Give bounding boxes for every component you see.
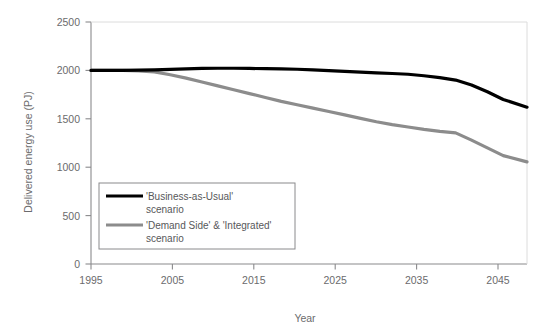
- series-line-business-as-usual: [91, 68, 527, 107]
- series-line-demand-side-integrated: [91, 70, 527, 161]
- x-axis-tick-labels: 1995 2005 2015 2025 2035 2045: [79, 274, 510, 286]
- legend-label-demand-side-integrated-line2: scenario: [146, 233, 184, 244]
- legend: 'Business-as-Usual' scenario 'Demand Sid…: [99, 183, 295, 249]
- y-tick-label-2500: 2500: [57, 16, 81, 28]
- x-tick-label-2045: 2045: [486, 274, 510, 286]
- y-axis-title: Delivered energy use (PJ): [22, 91, 34, 212]
- y-axis-ticks: [86, 22, 92, 264]
- x-tick-label-1995: 1995: [79, 274, 103, 286]
- legend-label-demand-side-integrated-line1: 'Demand Side' & 'Integrated': [146, 220, 272, 231]
- x-tick-label-2015: 2015: [242, 274, 266, 286]
- x-axis-ticks: [91, 264, 498, 270]
- y-axis-tick-labels: 2500 2000 1500 1000 500 0: [57, 16, 81, 270]
- x-tick-label-2025: 2025: [324, 274, 348, 286]
- legend-label-business-as-usual-line1: 'Business-as-Usual': [146, 191, 233, 202]
- y-tick-label-1000: 1000: [57, 161, 81, 173]
- y-tick-label-500: 500: [62, 210, 80, 222]
- y-tick-label-1500: 1500: [57, 113, 81, 125]
- data-series-group: [91, 68, 527, 162]
- chart-container: 2500 2000 1500 1000 500 0 1995 2005 2015…: [0, 0, 546, 334]
- y-tick-label-2000: 2000: [57, 64, 81, 76]
- y-tick-label-0: 0: [74, 258, 80, 270]
- line-chart-svg: 2500 2000 1500 1000 500 0 1995 2005 2015…: [0, 0, 546, 334]
- x-tick-label-2035: 2035: [405, 274, 429, 286]
- legend-label-business-as-usual-line2: scenario: [146, 204, 184, 215]
- x-axis-title: Year: [294, 312, 316, 324]
- x-tick-label-2005: 2005: [161, 274, 185, 286]
